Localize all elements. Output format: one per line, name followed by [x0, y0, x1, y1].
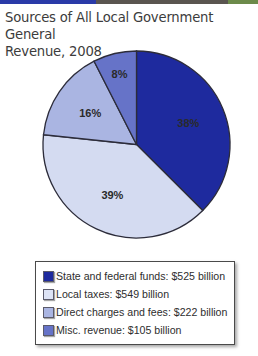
pie-chart: 38%39%16%8%	[0, 0, 258, 260]
pie-percent-label: 16%	[79, 107, 101, 119]
legend-item-misc-revenue: Misc. revenue: $105 billion	[43, 323, 181, 337]
pie-percent-label: 8%	[112, 68, 128, 80]
legend-swatch-icon	[43, 271, 54, 282]
legend-label: Misc. revenue: $105 billion	[56, 324, 181, 336]
legend-swatch-icon	[43, 307, 54, 318]
legend-item-local-taxes: Local taxes: $549 billion	[43, 287, 169, 301]
chart-legend: State and federal funds: $525 billion Lo…	[35, 261, 235, 345]
legend-label: State and federal funds: $525 billion	[56, 270, 225, 282]
legend-item-direct-charges: Direct charges and fees: $222 billion	[43, 305, 227, 319]
legend-swatch-icon	[43, 325, 54, 336]
pie-percent-label: 38%	[177, 117, 199, 129]
legend-swatch-icon	[43, 289, 54, 300]
legend-label: Local taxes: $549 billion	[56, 288, 169, 300]
legend-item-state-federal: State and federal funds: $525 billion	[43, 269, 225, 283]
legend-label: Direct charges and fees: $222 billion	[56, 306, 227, 318]
pie-percent-label: 39%	[101, 189, 123, 201]
